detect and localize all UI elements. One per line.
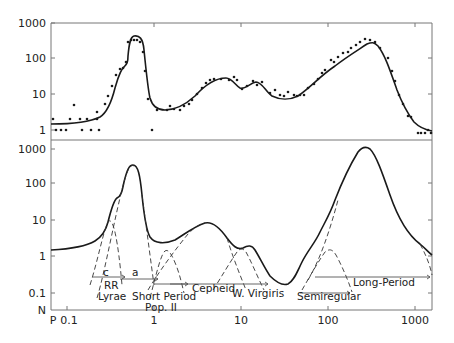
label-long-period: Long-Period: [353, 276, 415, 288]
label-pop-ii: Pop. II: [145, 301, 177, 313]
x-axis-symbol-p: P: [50, 314, 57, 327]
annotations: c a RR Lyrae Short Period Pop. II Cephei…: [98, 266, 415, 313]
bottom-y-label-10: 10: [32, 214, 46, 227]
x-label-1: 1: [151, 314, 158, 327]
bottom-total-curve: [51, 147, 432, 284]
semiregular-curve: [302, 250, 352, 292]
x-label-1000: 1000: [401, 314, 429, 327]
x-axis: P 0.1 1 10 100 1000: [50, 306, 429, 327]
label-cepheid: Cepheid: [192, 282, 235, 294]
label-c: c: [103, 266, 109, 278]
variable-star-period-chart: 1000 100 10 1 1000 100 10 1 0.1 N P 0.1 …: [0, 0, 454, 343]
label-lyrae: Lyrae: [98, 290, 126, 302]
bottom-y-label-100: 100: [25, 177, 46, 190]
top-y-label-1000: 1000: [18, 17, 46, 30]
bottom-y-label-1000: 1000: [18, 143, 46, 156]
top-fit-curve: [51, 36, 432, 131]
x-label-0.1: 0.1: [60, 314, 78, 327]
bottom-y-label-1: 1: [39, 250, 46, 263]
bottom-y-label-0.1: 0.1: [29, 287, 47, 300]
label-w-virginis: W. Virgiris: [232, 287, 284, 299]
top-y-label-1: 1: [39, 124, 46, 137]
y-axis-symbol-n: N: [38, 304, 46, 317]
top-panel-frame: [51, 23, 432, 140]
x-label-100: 100: [318, 314, 339, 327]
top-y-label-100: 100: [25, 52, 46, 65]
x-label-10: 10: [234, 314, 248, 327]
top-data-points: [52, 38, 433, 135]
long-period-curve: [308, 200, 432, 280]
label-semiregular: Semiregular: [297, 290, 361, 302]
top-y-label-10: 10: [32, 88, 46, 101]
label-a: a: [132, 266, 138, 278]
